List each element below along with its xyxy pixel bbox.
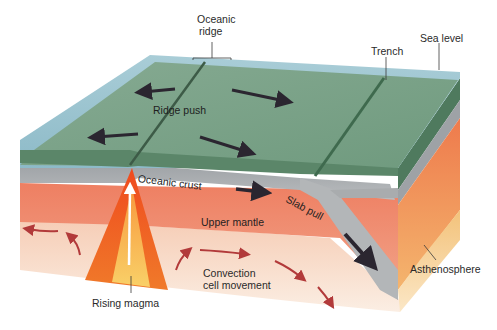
label-oceanic-ridge-line1: Oceanic bbox=[197, 13, 236, 25]
label-trench: Trench bbox=[371, 45, 403, 57]
label-upper-mantle: Upper mantle bbox=[201, 216, 264, 228]
label-convection-line1: Convection bbox=[203, 267, 256, 279]
sea-floor bbox=[20, 62, 458, 176]
label-oceanic-ridge-line2: ridge bbox=[199, 25, 222, 37]
label-sea-level: Sea level bbox=[420, 32, 463, 44]
label-convection-line2: cell movement bbox=[203, 279, 271, 291]
label-asthenosphere: Asthenosphere bbox=[410, 263, 481, 275]
label-rising-magma: Rising magma bbox=[92, 297, 159, 309]
rising-magma-arrow bbox=[129, 188, 130, 265]
label-ridge-push: Ridge push bbox=[153, 104, 206, 116]
